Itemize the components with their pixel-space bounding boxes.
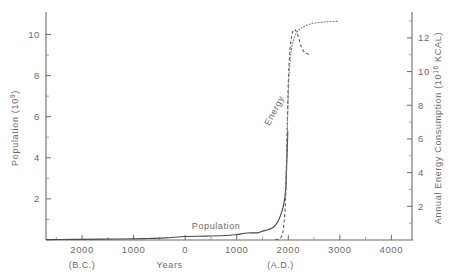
energy-declining-curve [275,29,309,239]
population-energy-line-chart: 246810 24681012 200010000100020003000400… [0,0,454,272]
population-curve [46,131,288,240]
left-tick-label: 10 [28,29,40,40]
left-axis-tick-labels: 246810 [28,29,40,204]
left-tick-label: 8 [34,70,40,81]
left-tick-label: 6 [34,111,40,122]
bottom-tick-label: 3000 [328,244,352,255]
right-axis-title: Annual Energy Consumption (1016 KCAL) [432,32,443,224]
right-tick-label: 6 [418,133,424,144]
right-tick-label: 2 [418,201,424,212]
left-axis-title: Population (109) [9,90,20,166]
bottom-tick-label: 4000 [380,244,404,255]
right-tick-label: 12 [418,32,430,43]
right-tick-label: 4 [418,167,424,178]
right-tick-label: 10 [418,66,430,77]
axes-group [46,12,413,240]
energy-sustained-curve [286,21,338,196]
bottom-tick-label: 0 [182,244,188,255]
bottom-tick-label: 1000 [122,244,146,255]
x-axis-era-ad: (A.D.) [267,260,294,270]
bottom-tick-label: 2000 [277,244,301,255]
right-axis-title-close: KCAL) [433,32,443,65]
right-axis-exponent: 16 [432,65,439,74]
series-group [46,21,338,239]
bottom-axis-tick-labels: 2000100001000200030004000 [70,244,403,255]
series-label-energy: Energy [262,94,286,127]
left-tick-label: 4 [34,152,40,163]
bottom-tick-label: 1000 [225,244,249,255]
right-tick-label: 8 [418,100,424,111]
right-axis-tick-labels: 24681012 [418,32,430,211]
bottom-tick-label: 2000 [70,244,94,255]
x-axis-era-bc: (B.C.) [69,260,96,270]
series-annotations: PopulationEnergy [192,94,286,231]
left-tick-label: 2 [34,193,40,204]
right-axis-ticks [407,21,412,223]
axis-titles: Population (109) Annual Energy Consumpti… [9,32,443,270]
chart-figure: 246810 24681012 200010000100020003000400… [0,0,454,272]
left-axis-ticks [46,34,51,219]
left-axis-title-close: ) [10,90,20,94]
x-axis-title: Years [157,260,183,270]
series-label-population: Population [192,221,241,231]
